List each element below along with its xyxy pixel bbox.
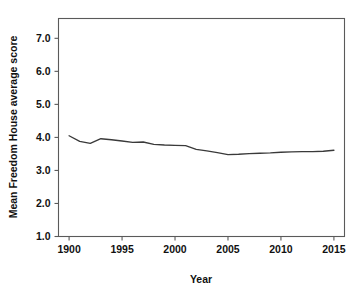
x-tick-label: 1995	[110, 243, 134, 255]
y-tick-label: 2.0	[36, 197, 51, 209]
x-tick-label: 1900	[57, 243, 81, 255]
y-tick-label: 1.0	[36, 230, 51, 242]
x-axis-title: Year	[190, 273, 212, 285]
chart-container: 1.02.03.04.05.06.07.0 190019952000200520…	[0, 0, 362, 293]
y-tick-label: 4.0	[36, 131, 51, 143]
x-tick-label: 2015	[322, 243, 346, 255]
x-tick-label: 2005	[216, 243, 240, 255]
y-tick-label: 6.0	[36, 65, 51, 77]
y-axis-title: Mean Freedom House average score	[7, 36, 19, 219]
line-chart: 1.02.03.04.05.06.07.0 190019952000200520…	[0, 0, 362, 293]
y-tick-label: 3.0	[36, 164, 51, 176]
y-tick-label: 5.0	[36, 98, 51, 110]
y-tick-label: 7.0	[36, 32, 51, 44]
x-tick-label: 2010	[269, 243, 293, 255]
x-tick-label: 2000	[163, 243, 187, 255]
